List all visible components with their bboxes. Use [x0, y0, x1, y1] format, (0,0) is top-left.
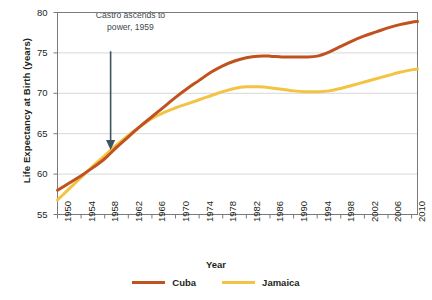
x-tick-label: 1974: [204, 200, 215, 221]
legend-item-jamaica[interactable]: Jamaica: [222, 277, 300, 288]
y-tick-label: 55: [22, 209, 48, 220]
x-tick-label: 2010: [416, 200, 427, 221]
x-tick-label: 1994: [322, 200, 333, 221]
y-tick-label: 65: [22, 128, 48, 139]
plot-area: [0, 0, 432, 300]
chart-legend: Cuba Jamaica: [0, 277, 432, 288]
x-tick-label: 1998: [345, 200, 356, 221]
legend-swatch-cuba: [132, 281, 165, 284]
chart-figure: Life Expectancy at Birth (years) Year Ca…: [0, 0, 432, 300]
y-tick-label: 70: [22, 87, 48, 98]
legend-swatch-jamaica: [222, 281, 255, 284]
x-tick-label: 1990: [298, 200, 309, 221]
legend-label-jamaica: Jamaica: [262, 277, 300, 288]
x-tick-label: 2002: [369, 200, 380, 221]
y-tick-label: 75: [22, 47, 48, 58]
y-tick-label: 60: [22, 168, 48, 179]
series-line-jamaica: [58, 69, 418, 200]
x-tick-label: 1958: [109, 200, 120, 221]
x-tick-label: 1966: [156, 200, 167, 221]
x-tick-label: 1950: [62, 200, 73, 221]
x-tick-label: 1970: [180, 200, 191, 221]
legend-item-cuba[interactable]: Cuba: [132, 277, 196, 288]
x-tick-label: 1978: [227, 200, 238, 221]
x-tick-label: 2006: [392, 200, 403, 221]
x-tick-label: 1962: [133, 200, 144, 221]
x-tick-label: 1982: [251, 200, 262, 221]
legend-label-cuba: Cuba: [172, 277, 196, 288]
x-tick-label: 1954: [86, 200, 97, 221]
x-tick-label: 1986: [274, 200, 285, 221]
series-line-cuba: [58, 21, 418, 190]
y-tick-label: 80: [22, 7, 48, 18]
plot-frame: [58, 13, 418, 215]
